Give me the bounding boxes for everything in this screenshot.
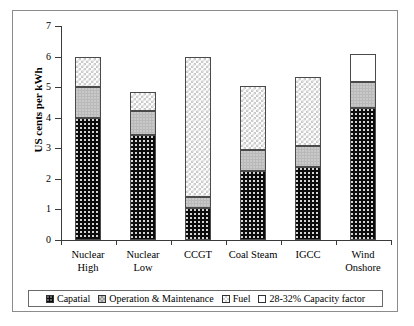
bar-segment-fuel[interactable] bbox=[295, 77, 321, 146]
y-tick-2 bbox=[55, 179, 61, 180]
y-tick-label-0: 0 bbox=[33, 235, 51, 245]
legend-swatch-om-icon bbox=[98, 295, 106, 303]
legend-item-capacity-factor[interactable]: 28-32% Capacity factor bbox=[258, 293, 365, 304]
y-tick-label-1: 1 bbox=[33, 204, 51, 214]
bar-segment-capital[interactable] bbox=[240, 171, 266, 240]
y-tick-label-3: 3 bbox=[33, 143, 51, 153]
legend-swatch-capital-icon bbox=[46, 295, 54, 303]
y-tick-label-4: 4 bbox=[33, 113, 51, 123]
bar-segment-capital[interactable] bbox=[350, 108, 376, 240]
bar-segment-om[interactable] bbox=[130, 111, 156, 135]
y-tick-7 bbox=[55, 26, 61, 27]
y-tick-6 bbox=[55, 57, 61, 58]
cat-line-1: Wind bbox=[352, 249, 375, 260]
bar-segment-capital[interactable] bbox=[130, 135, 156, 240]
bar-segment-capital[interactable] bbox=[185, 208, 211, 240]
legend-item-operation-maintenance[interactable]: Operation & Maintenance bbox=[98, 293, 213, 304]
y-tick-1 bbox=[55, 209, 61, 210]
chart-figure: US cents per kWh 7 6 5 4 3 2 1 0 bbox=[0, 0, 414, 326]
bar-segment-capacity-factor[interactable] bbox=[350, 54, 376, 82]
bar-segment-fuel[interactable] bbox=[240, 86, 266, 150]
bar-segment-om[interactable] bbox=[295, 146, 321, 167]
cat-line-2: Onshore bbox=[320, 262, 406, 275]
x-tick-4 bbox=[281, 240, 282, 245]
y-tick-label-6: 6 bbox=[33, 52, 51, 62]
bar-segment-fuel[interactable] bbox=[130, 92, 156, 111]
x-category-label-wind-onshore: Wind Onshore bbox=[320, 249, 406, 274]
y-tick-5 bbox=[55, 87, 61, 88]
bar-segment-capital[interactable] bbox=[75, 118, 101, 240]
x-tick-3 bbox=[226, 240, 227, 245]
legend-label-capacity-factor: 28-32% Capacity factor bbox=[269, 293, 365, 304]
bar-segment-capital[interactable] bbox=[295, 167, 321, 240]
legend-item-capital[interactable]: Capatial bbox=[46, 293, 90, 304]
plot-area: US cents per kWh 7 6 5 4 3 2 1 0 bbox=[0, 0, 414, 326]
legend-label-operation-maintenance: Operation & Maintenance bbox=[109, 293, 213, 304]
y-tick-4 bbox=[55, 118, 61, 119]
y-tick-label-5: 5 bbox=[33, 82, 51, 92]
x-tick-2 bbox=[171, 240, 172, 245]
bar-segment-fuel[interactable] bbox=[185, 57, 211, 197]
y-tick-label-2: 2 bbox=[33, 174, 51, 184]
bar-segment-om[interactable] bbox=[240, 150, 266, 171]
y-tick-3 bbox=[55, 148, 61, 149]
x-tick-5 bbox=[336, 240, 337, 245]
bar-segment-om[interactable] bbox=[75, 87, 101, 118]
x-tick-1 bbox=[116, 240, 117, 245]
cat-line-1: CCGT bbox=[184, 249, 212, 260]
y-axis-line bbox=[61, 26, 62, 241]
cat-line-1: IGCC bbox=[295, 249, 320, 260]
bar-segment-fuel[interactable] bbox=[75, 57, 101, 87]
bar-segment-om[interactable] bbox=[185, 197, 211, 208]
cat-line-2: Low bbox=[100, 262, 186, 275]
legend-label-capital: Capatial bbox=[57, 293, 90, 304]
chart-legend: Capatial Operation & Maintenance Fuel 28… bbox=[28, 290, 383, 307]
legend-item-fuel[interactable]: Fuel bbox=[222, 293, 251, 304]
legend-label-fuel: Fuel bbox=[233, 293, 251, 304]
legend-swatch-capacity-icon bbox=[258, 295, 266, 303]
x-tick-6 bbox=[391, 240, 392, 245]
legend-swatch-fuel-icon bbox=[222, 295, 230, 303]
bar-segment-om[interactable] bbox=[350, 82, 376, 108]
y-tick-label-7: 7 bbox=[33, 21, 51, 31]
x-tick-0 bbox=[61, 240, 62, 245]
